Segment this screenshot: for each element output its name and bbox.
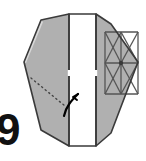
origami-diagram-canvas: 9 [0, 0, 146, 161]
origami-diagram-figure: 9 [0, 0, 146, 161]
grid-center-dot [119, 61, 123, 65]
step-number-glyph: 9 [0, 105, 20, 154]
center-white-strip [69, 14, 96, 146]
